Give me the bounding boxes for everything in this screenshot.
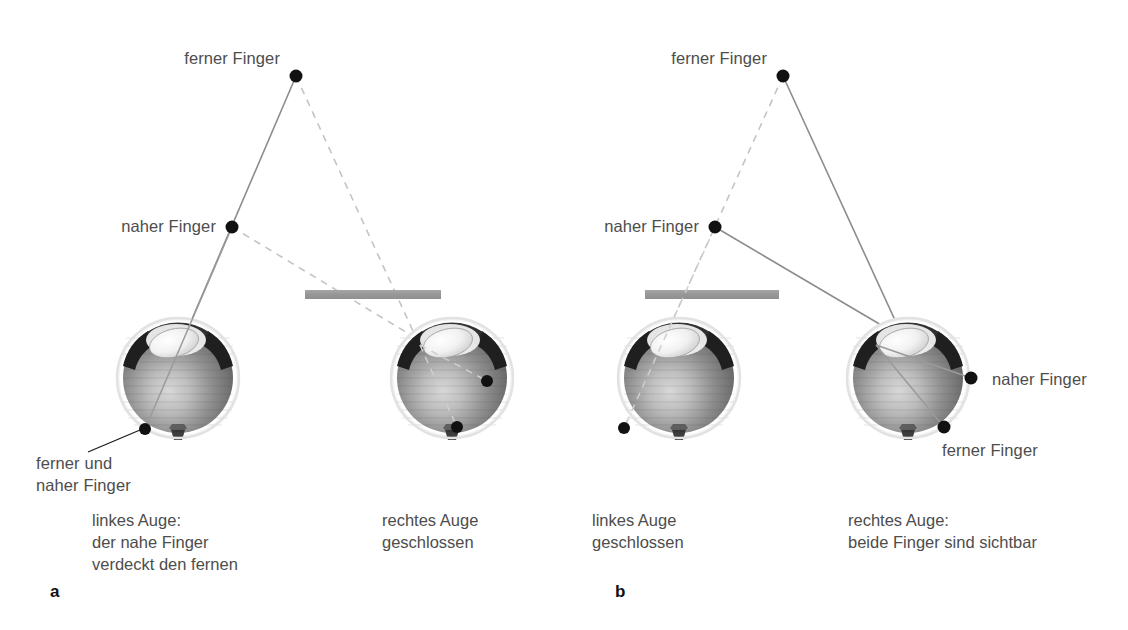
panel-a-caption-left-line-1: linkes Auge: (92, 511, 181, 529)
panel-b-left-retina-point (618, 422, 630, 434)
panel-a-ferner-finger-label: ferner Finger (184, 49, 280, 67)
panel-a-callout-line-2: naher Finger (36, 476, 131, 494)
panel-a-caption-left-line-3: verdeckt den fernen (92, 555, 238, 573)
panel-b-letter: b (615, 582, 625, 601)
panel-a-letter: a (50, 582, 60, 601)
panel-b-caption-left-line-1: linkes Auge (592, 511, 676, 529)
panel-b-caption-right-line-2: beide Finger sind sichtbar (848, 533, 1037, 551)
parallax-figure-canvas: ferner Finger naher Finger ferner und na… (0, 0, 1128, 630)
panel-b-naher-finger-label: naher Finger (604, 217, 699, 235)
panel-b-caption-left-line-2: geschlossen (592, 533, 684, 551)
panel-b-retina-near-label: naher Finger (992, 370, 1087, 388)
panel-b-right-retina-near-point (965, 372, 978, 385)
panel-a-left-retina-point (139, 423, 151, 435)
panel-b-ferner-finger-label: ferner Finger (671, 49, 767, 67)
panel-b-right-retina-far-point (938, 421, 951, 434)
panel-a-caption-right-line-2: geschlossen (382, 533, 474, 551)
panel-a-caption-left-line-2: der nahe Finger (92, 533, 209, 551)
panel-a-caption-right-line-1: rechtes Auge (382, 511, 478, 529)
panel-b-occluder-bar (645, 290, 779, 299)
panel-b-retina-far-label: ferner Finger (942, 441, 1038, 459)
panel-b-ferner-finger-point (777, 70, 790, 83)
panel-a-naher-finger-label: naher Finger (121, 217, 216, 235)
panel-a-ferner-finger-point (290, 70, 303, 83)
panel-a-occluder-bar (305, 290, 441, 299)
panel-a-callout-line-1: ferner und (36, 454, 112, 472)
panel-b-naher-finger-point (709, 221, 722, 234)
panel-a-right-retina-far-point (451, 421, 463, 433)
panel-b-caption-right-line-1: rechtes Auge: (848, 511, 949, 529)
panel-a-right-retina-near-point (481, 375, 493, 387)
panel-a-naher-finger-point (226, 221, 239, 234)
figure-root: ferner Finger naher Finger ferner und na… (0, 0, 1128, 630)
